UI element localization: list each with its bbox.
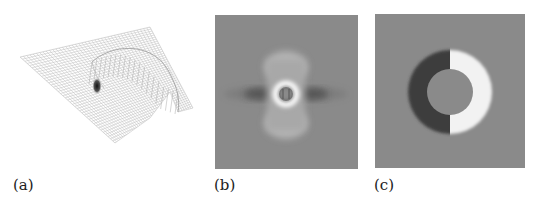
spike-peak: [92, 77, 102, 95]
panel-c-field-image: [375, 14, 525, 168]
panel-label-a: (a): [13, 178, 34, 193]
wireframe-mesh: [0, 0, 200, 170]
inner-disc: [427, 69, 473, 115]
field-b-render: [215, 15, 358, 169]
panel-b-field-image: [215, 15, 358, 169]
field-c-render: [375, 14, 525, 168]
panel-a-wireframe-surface: [0, 0, 200, 170]
panel-label-c: (c): [374, 178, 394, 193]
panel-label-b: (b): [214, 178, 235, 193]
